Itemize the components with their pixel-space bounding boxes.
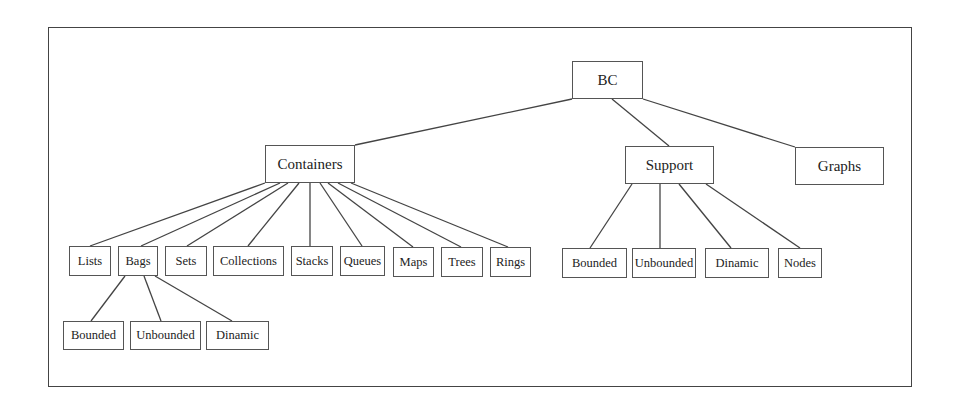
node-label: Support [646, 157, 694, 174]
node-support-bounded: Bounded [562, 248, 627, 278]
node-support-dinamic: Dinamic [705, 248, 769, 278]
node-trees: Trees [441, 247, 483, 277]
node-stacks: Stacks [291, 246, 333, 276]
node-bags-dinamic: Dinamic [206, 321, 269, 350]
node-label: Dinamic [216, 328, 259, 343]
node-label: Containers [278, 156, 343, 173]
node-label: Graphs [818, 158, 861, 175]
node-label: Unbounded [635, 256, 693, 271]
node-sets: Sets [165, 246, 207, 276]
node-support-unbounded: Unbounded [632, 248, 696, 278]
node-label: Bounded [71, 328, 116, 343]
edge-line [351, 183, 508, 247]
node-label: Trees [448, 255, 475, 270]
tree-edges [0, 0, 958, 412]
node-containers: Containers [265, 145, 355, 183]
edge-line [612, 99, 669, 146]
node-collections: Collections [213, 246, 284, 276]
node-label: Queues [344, 254, 382, 269]
node-maps: Maps [393, 247, 434, 277]
node-support-nodes: Nodes [778, 248, 822, 278]
node-label: Dinamic [715, 256, 758, 271]
node-label: Unbounded [136, 328, 194, 343]
edge-line [141, 183, 280, 246]
edge-line [706, 184, 800, 248]
node-label: Nodes [784, 256, 816, 271]
node-label: Maps [400, 255, 428, 270]
edge-line [643, 99, 795, 147]
node-bags: Bags [118, 246, 158, 276]
edge-line [90, 183, 265, 246]
node-label: Bounded [572, 256, 617, 271]
node-label: Collections [220, 254, 277, 269]
node-rings: Rings [490, 247, 531, 277]
edge-line [91, 276, 125, 321]
edge-line [590, 184, 632, 248]
node-label: BC [597, 72, 617, 89]
edge-line [679, 184, 731, 248]
node-label: Lists [78, 254, 102, 269]
node-bags-bounded: Bounded [63, 321, 124, 350]
edge-line [155, 276, 232, 321]
edge-line [144, 276, 161, 321]
node-bags-unbounded: Unbounded [130, 321, 201, 350]
node-lists: Lists [69, 246, 111, 276]
node-label: Bags [126, 254, 151, 269]
node-graphs: Graphs [795, 147, 884, 185]
node-label: Rings [496, 255, 525, 270]
node-label: Sets [176, 254, 197, 269]
node-support: Support [625, 146, 714, 184]
node-queues: Queues [340, 246, 385, 276]
node-label: Stacks [296, 254, 329, 269]
edge-line [355, 99, 572, 145]
node-bc: BC [572, 61, 643, 99]
